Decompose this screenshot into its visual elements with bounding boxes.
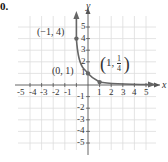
x-tick-neg5: -5 xyxy=(17,88,25,97)
y-tick-neg3: -3 xyxy=(77,115,85,124)
label-point-neg1-4: (−1, 4) xyxy=(37,27,64,37)
y-tick-5: 5 xyxy=(81,22,86,31)
y-tick-neg2: -2 xyxy=(77,103,85,112)
x-tick-2: 2 xyxy=(109,88,114,97)
label-point-1-quarter: (1, 14 ) xyxy=(100,54,130,73)
y-tick-neg1: -1 xyxy=(77,92,85,101)
x-tick-1: 1 xyxy=(97,88,102,97)
y-tick-neg4: -4 xyxy=(77,126,85,135)
x-tick-neg1: -1 xyxy=(64,88,72,97)
point-0-1 xyxy=(86,71,90,75)
x-tick-3: 3 xyxy=(121,88,126,97)
y-tick-1: 1 xyxy=(81,68,86,77)
x-tick-4: 4 xyxy=(132,88,137,97)
y-tick-2: 2 xyxy=(81,57,86,66)
x-tick-neg3: -3 xyxy=(40,88,48,97)
y-tick-neg5: -5 xyxy=(77,138,85,147)
x-tick-neg2: -2 xyxy=(52,88,60,97)
label-point-0-1: (0, 1) xyxy=(52,66,74,76)
point-1-quarter xyxy=(97,80,101,84)
x-tick-neg4: -4 xyxy=(29,88,37,97)
y-axis-label: y xyxy=(86,1,90,11)
y-tick-3: 3 xyxy=(81,45,86,54)
point-neg1-4 xyxy=(74,36,78,40)
y-tick-4: 4 xyxy=(81,34,86,43)
x-axis-label: x xyxy=(162,80,166,90)
x-tick-5: 5 xyxy=(144,88,149,97)
